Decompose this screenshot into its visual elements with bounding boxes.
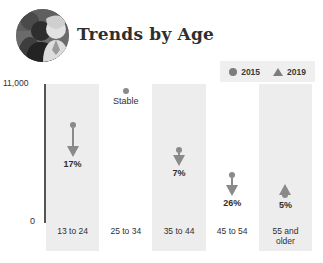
marker-25-to-34: Stable bbox=[99, 88, 152, 106]
legend-label-2015: 2015 bbox=[241, 67, 260, 77]
x-label-25-to-34: 25 to 34 bbox=[99, 226, 152, 246]
circle-marker-icon bbox=[123, 88, 129, 94]
y-axis-max-label: 11,000 bbox=[3, 78, 28, 88]
change-connector-line bbox=[72, 128, 74, 146]
triangle-down-icon bbox=[67, 146, 79, 157]
x-label-55-and-older: 55 and older bbox=[259, 226, 312, 246]
change-label-13-to-24: 17% bbox=[64, 159, 82, 169]
x-label-35-to-44: 35 to 44 bbox=[152, 226, 205, 246]
chart-header: Trends by Age bbox=[0, 0, 323, 68]
legend-label-2019: 2019 bbox=[287, 67, 306, 77]
change-connector-line bbox=[231, 178, 233, 185]
triangle-marker-icon bbox=[273, 68, 283, 76]
change-label-35-to-44: 7% bbox=[173, 168, 186, 178]
legend-item-2019: 2019 bbox=[273, 67, 306, 77]
marker-35-to-44: 7% bbox=[152, 147, 205, 178]
y-axis-zero-label: 0 bbox=[30, 216, 35, 226]
marker-45-to-54: 26% bbox=[206, 172, 259, 208]
column-35-to-44: 7% bbox=[152, 84, 205, 223]
chart-plot-area: 17% Stable 7% 26% bbox=[44, 84, 312, 223]
circle-marker-icon bbox=[282, 192, 288, 198]
legend-item-2015: 2015 bbox=[229, 67, 260, 77]
x-label-line1: 55 and bbox=[272, 226, 298, 236]
marker-13-to-24: 17% bbox=[46, 122, 99, 169]
triangle-down-icon bbox=[226, 185, 238, 196]
change-label-45-to-54: 26% bbox=[223, 198, 241, 208]
x-label-13-to-24: 13 to 24 bbox=[46, 226, 99, 246]
x-axis-labels: 13 to 24 25 to 34 35 to 44 45 to 54 55 a… bbox=[46, 226, 312, 246]
chart-legend: 2015 2019 bbox=[220, 61, 315, 82]
marker-55-and-older: 5% bbox=[259, 184, 312, 210]
column-25-to-34: Stable bbox=[99, 84, 152, 223]
change-label-25-to-34: Stable bbox=[113, 96, 139, 106]
column-13-to-24: 17% bbox=[46, 84, 99, 223]
chart-columns: 17% Stable 7% 26% bbox=[46, 84, 312, 223]
column-55-and-older: 5% bbox=[259, 84, 312, 223]
page-title: Trends by Age bbox=[77, 24, 214, 44]
people-photo-avatar bbox=[16, 9, 69, 62]
column-45-to-54: 26% bbox=[206, 84, 259, 223]
x-label-line2: older bbox=[276, 236, 295, 246]
x-label-45-to-54: 45 to 54 bbox=[206, 226, 259, 246]
triangle-down-icon bbox=[173, 155, 185, 166]
circle-marker-icon bbox=[229, 68, 237, 76]
change-label-55-and-older: 5% bbox=[279, 200, 292, 210]
